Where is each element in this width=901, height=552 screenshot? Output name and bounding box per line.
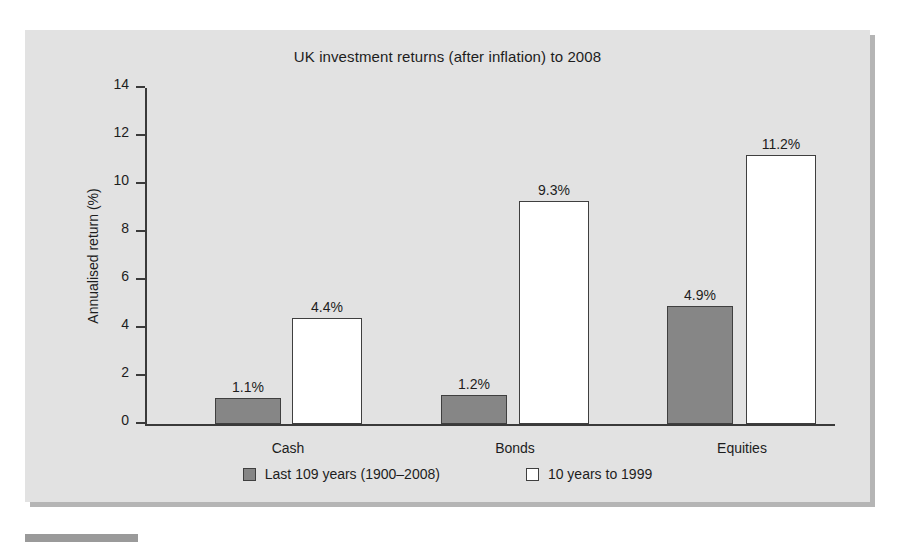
legend-label-series-1: 10 years to 1999 (548, 466, 652, 482)
bar-label-equities-0: 4.9% (684, 287, 716, 303)
y-axis-title: Annualised return (%) (83, 88, 103, 424)
y-tick-4: 8 (136, 230, 145, 232)
plot-area: 0 2 4 6 8 10 12 14 1.1% 4.4% Cash (145, 88, 825, 424)
y-axis-title-text: Annualised return (%) (85, 188, 101, 323)
y-tick-2: 4 (136, 326, 145, 328)
y-tick-label-3: 6 (121, 268, 129, 284)
bar-bonds-last-109-years[interactable]: 1.2% (441, 395, 507, 424)
bar-equities-10-years-to-1999[interactable]: 11.2% (746, 155, 816, 424)
category-label-equities: Equities (717, 440, 767, 456)
y-tick-5: 10 (136, 182, 145, 184)
bar-cash-10-years-to-1999[interactable]: 4.4% (292, 318, 362, 424)
legend-item-10-years-to-1999[interactable]: 10 years to 1999 (526, 466, 652, 482)
category-label-bonds: Bonds (495, 440, 535, 456)
y-tick-label-1: 2 (121, 364, 129, 380)
legend-item-last-109-years[interactable]: Last 109 years (1900–2008) (243, 466, 440, 482)
y-axis-line (145, 88, 147, 424)
legend-swatch-icon-series-1 (526, 468, 539, 481)
figure-panel: UK investment returns (after inflation) … (25, 30, 870, 502)
bar-label-cash-1: 4.4% (311, 299, 343, 315)
bar-label-bonds-1: 9.3% (538, 182, 570, 198)
y-tick-1: 2 (136, 374, 145, 376)
x-axis-line (145, 424, 835, 426)
y-tick-label-6: 12 (113, 124, 129, 140)
category-label-cash: Cash (272, 440, 305, 456)
y-tick-label-0: 0 (121, 412, 129, 428)
y-tick-3: 6 (136, 278, 145, 280)
chart-legend: Last 109 years (1900–2008) 10 years to 1… (25, 466, 870, 482)
y-tick-0: 0 (136, 422, 145, 424)
bar-equities-last-109-years[interactable]: 4.9% (667, 306, 733, 424)
y-tick-label-5: 10 (113, 172, 129, 188)
y-tick-6: 12 (136, 134, 145, 136)
y-tick-label-2: 4 (121, 316, 129, 332)
caption-rule (25, 534, 138, 542)
bar-label-cash-0: 1.1% (232, 379, 264, 395)
y-tick-label-7: 14 (113, 76, 129, 92)
y-tick-label-4: 8 (121, 220, 129, 236)
legend-label-series-0: Last 109 years (1900–2008) (265, 466, 440, 482)
bar-bonds-10-years-to-1999[interactable]: 9.3% (519, 201, 589, 424)
y-tick-7: 14 (136, 86, 145, 88)
bar-label-equities-1: 11.2% (762, 136, 801, 152)
legend-swatch-icon-series-0 (243, 468, 256, 481)
bar-label-bonds-0: 1.2% (458, 376, 490, 392)
bar-cash-last-109-years[interactable]: 1.1% (215, 398, 281, 424)
chart-title: UK investment returns (after inflation) … (25, 48, 870, 65)
